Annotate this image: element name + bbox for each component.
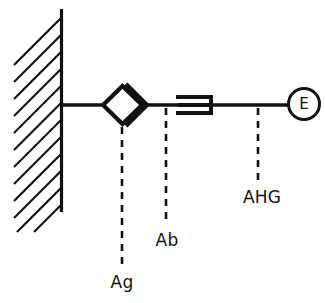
enzyme-label: E <box>299 95 308 113</box>
diagram-canvas: E Ag Ab AHG <box>0 0 325 303</box>
label-ahg: AHG <box>243 187 281 207</box>
serology-diagram: E Ag Ab AHG <box>0 0 325 303</box>
label-ab: Ab <box>156 230 179 250</box>
wall-hatching <box>14 17 62 232</box>
antibody-symbol <box>176 97 211 113</box>
label-ag: Ag <box>111 272 134 292</box>
antigen-symbol <box>103 84 147 126</box>
enzyme-marker: E <box>289 89 320 120</box>
